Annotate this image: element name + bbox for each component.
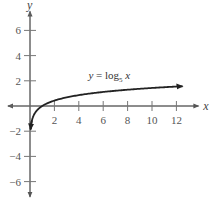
y-tick-label: −6 (9, 176, 21, 188)
x-tick-label: 8 (125, 114, 131, 126)
y-tick-label: 4 (16, 50, 22, 62)
y-tick-label: 2 (16, 75, 22, 87)
log-curve-lower-arrow (31, 120, 32, 129)
y-tick-label: 6 (16, 24, 22, 36)
y-tick-label: −2 (9, 125, 21, 137)
y-axis-label: y (26, 0, 33, 12)
x-tick-label: 10 (147, 114, 159, 126)
log-function-chart: xy24681012−6−4−2246y = log5 x (0, 0, 214, 203)
function-label-x: x (123, 69, 131, 81)
function-label-log: = log (93, 69, 119, 81)
x-tick-label: 2 (52, 114, 58, 126)
x-tick-label: 6 (100, 114, 106, 126)
x-axis-label: x (202, 99, 209, 113)
label-layer: xy24681012−6−4−2246y = log5 x (9, 0, 209, 188)
function-label: y = log5 x (87, 69, 130, 84)
x-tick-label: 4 (76, 114, 82, 126)
x-tick-label: 12 (171, 114, 182, 126)
y-tick-label: −4 (9, 150, 21, 162)
